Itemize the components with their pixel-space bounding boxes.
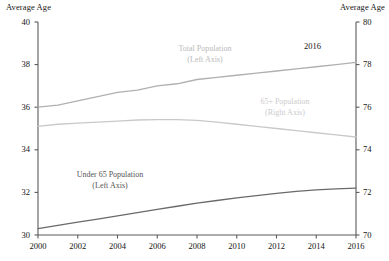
series-label-65-plus-population: 65+ Population (Right Axis)	[232, 97, 338, 118]
right-axis-tick-label: 80	[363, 17, 381, 27]
x-axis-tick-label: 2006	[140, 241, 174, 251]
chart-container: Average Age Average Age Total Population…	[0, 0, 389, 261]
x-axis-tick-label: 2000	[21, 241, 55, 251]
right-axis-tick-label: 76	[363, 102, 381, 112]
left-axis-tick-label: 38	[12, 59, 30, 69]
left-axis-tick-label: 40	[12, 17, 30, 27]
x-axis-tick-label: 2010	[220, 241, 254, 251]
left-axis-tick-label: 32	[12, 187, 30, 197]
right-axis-tick-label: 74	[363, 144, 381, 154]
x-axis-tick-label: 2014	[299, 241, 333, 251]
series-label-total-line2: (Left Axis)	[152, 55, 258, 66]
series-label-under65-line2: (Left Axis)	[52, 181, 168, 192]
series-label-total-line1: Total Population	[152, 44, 258, 55]
left-axis-tick-label: 36	[12, 102, 30, 112]
series-line-1	[38, 120, 356, 137]
series-line-2	[38, 188, 356, 228]
left-axis-tick-label: 34	[12, 144, 30, 154]
left-axis-tick-label: 30	[12, 230, 30, 240]
right-axis-tick-label: 70	[363, 230, 381, 240]
x-axis-tick-label: 2016	[339, 241, 373, 251]
series-label-total-population: Total Population (Left Axis)	[152, 44, 258, 65]
series-label-under-65-population: Under 65 Population (Left Axis)	[52, 170, 168, 191]
plot-area	[0, 0, 389, 261]
x-axis-tick-label: 2008	[180, 241, 214, 251]
right-axis-tick-label: 72	[363, 187, 381, 197]
x-axis-tick-label: 2002	[61, 241, 95, 251]
x-axis-tick-label: 2012	[260, 241, 294, 251]
right-axis-tick-label: 78	[363, 59, 381, 69]
x-axis-tick-label: 2004	[101, 241, 135, 251]
series-label-65plus-line1: 65+ Population	[232, 97, 338, 108]
series-label-under65-line1: Under 65 Population	[52, 170, 168, 181]
annotation-2016: 2016	[304, 41, 321, 51]
series-label-65plus-line2: (Right Axis)	[232, 108, 338, 119]
